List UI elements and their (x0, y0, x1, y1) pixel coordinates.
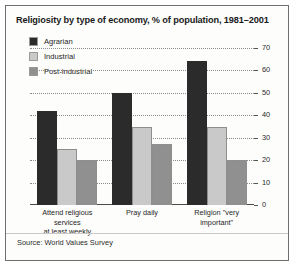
source-note: Source: World Values Survey (17, 238, 113, 247)
y-axis-tick-label: 0 (262, 201, 266, 208)
bar[interactable] (227, 160, 247, 205)
chart-figure: Religiosity by type of economy, % of pop… (5, 5, 289, 261)
legend-item-agrarian[interactable]: Agrarian (29, 34, 115, 48)
y-axis-tick (254, 160, 258, 161)
y-axis-tick (254, 70, 258, 71)
y-axis-tick (254, 183, 258, 184)
chart-title: Religiosity by type of economy, % of pop… (16, 15, 280, 25)
bar[interactable] (112, 93, 132, 205)
bar-group (110, 48, 174, 205)
y-axis-tick-label: 40 (262, 111, 270, 118)
y-axis-tick-label: 70 (262, 44, 270, 51)
chart-canvas: Religiosity by type of economy, % of pop… (6, 6, 288, 260)
bar[interactable] (132, 127, 152, 206)
bar-groups (30, 48, 254, 205)
y-axis-tick (254, 205, 258, 206)
y-axis-tick (254, 93, 258, 94)
bar[interactable] (207, 127, 227, 206)
y-axis-tick-label: 60 (262, 66, 270, 73)
bar[interactable] (77, 160, 97, 205)
y-axis-tick-label: 20 (262, 156, 270, 163)
bar[interactable] (187, 61, 207, 205)
bar-group (185, 48, 249, 205)
bar[interactable] (152, 144, 172, 205)
source-divider (6, 233, 288, 234)
bar[interactable] (57, 149, 77, 205)
y-axis-tick (254, 48, 258, 49)
y-axis-tick-label: 50 (262, 89, 270, 96)
y-axis-tick-label: 30 (262, 134, 270, 141)
bar[interactable] (37, 111, 57, 205)
y-axis-tick (254, 138, 258, 139)
plot-area (30, 48, 254, 205)
bar-group (35, 48, 99, 205)
y-axis-tick (254, 115, 258, 116)
legend-swatch-icon (29, 37, 38, 46)
legend-label: Agrarian (44, 37, 73, 46)
y-axis-tick-label: 10 (262, 179, 270, 186)
